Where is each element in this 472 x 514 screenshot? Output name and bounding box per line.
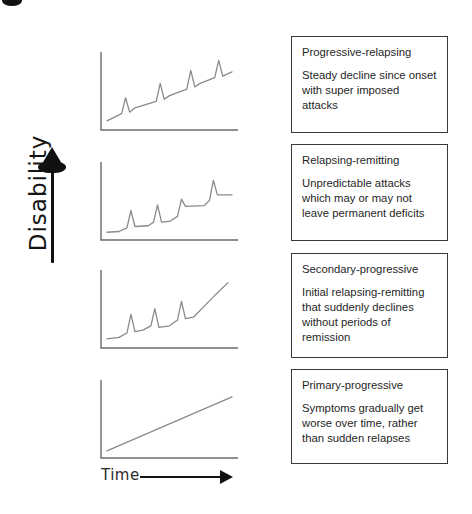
description-box-primary-progressive: Primary-progressive Symptoms gradually g…	[291, 369, 448, 464]
y-axis-label: Disability	[25, 128, 51, 258]
panel-body: Steady decline since onset with super im…	[302, 68, 438, 113]
description-box-relapsing-remitting: Relapsing-remitting Unpredictable attack…	[291, 144, 448, 241]
chart-relapsing-remitting	[92, 160, 242, 250]
chart-progressive-relapsing	[92, 50, 242, 140]
chart-svg-0	[92, 50, 242, 140]
right-arrow-shaft	[140, 476, 222, 478]
panel-body: Initial relapsing-remitting that suddenl…	[302, 285, 438, 345]
panel-body: Unpredictable attacks which may or may n…	[302, 176, 438, 221]
right-arrow-icon	[220, 470, 233, 484]
x-axis-label: Time	[101, 466, 140, 484]
chart-svg-1	[92, 160, 242, 250]
chart-primary-progressive	[92, 378, 242, 468]
chart-svg-2	[92, 268, 242, 358]
panel-title: Primary-progressive	[302, 378, 438, 392]
up-arrow-shaft	[51, 165, 54, 263]
description-box-progressive-relapsing: Progressive-relapsing Steady decline sin…	[291, 36, 448, 133]
diagram-canvas: Disability Time Progressive-relapsing	[0, 0, 472, 514]
panel-title: Progressive-relapsing	[302, 45, 438, 59]
chart-secondary-progressive	[92, 268, 242, 358]
panel-title: Relapsing-remitting	[302, 153, 438, 167]
description-box-secondary-progressive: Secondary-progressive Initial relapsing-…	[291, 253, 448, 358]
chart-svg-3	[92, 378, 242, 468]
ink-mark	[2, 0, 22, 6]
panel-title: Secondary-progressive	[302, 262, 438, 276]
panel-body: Symptoms gradually get worse over time, …	[302, 401, 438, 446]
